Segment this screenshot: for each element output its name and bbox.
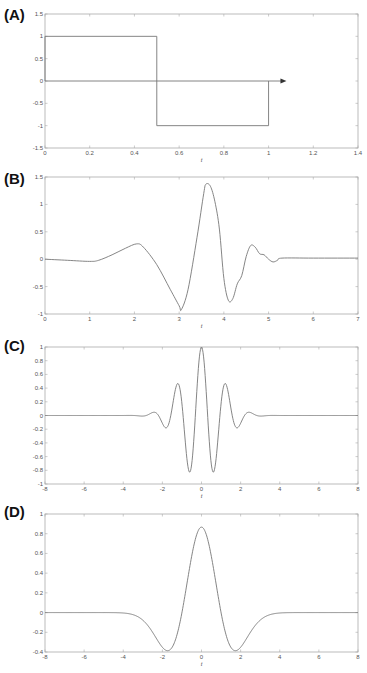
arrow-head-icon (280, 79, 286, 84)
x-tick-label: 0 (43, 150, 47, 156)
x-tick-label: 6 (317, 654, 321, 660)
x-tick-label: 4 (278, 486, 282, 492)
y-tick-label: 1.5 (35, 11, 44, 17)
wavelet-curve (45, 184, 358, 311)
x-tick-label: 1 (267, 150, 271, 156)
x-tick-label: 7 (356, 316, 360, 322)
y-tick-label: 0 (40, 413, 44, 419)
y-tick-label: 1 (40, 201, 44, 207)
x-axis-label: t (201, 157, 203, 163)
y-tick-label: -1 (38, 123, 44, 129)
chart-d: -8-6-4-202468-0.4-0.200.20.40.60.81t (33, 511, 361, 667)
x-tick-label: -6 (81, 654, 87, 660)
x-tick-label: -8 (42, 486, 48, 492)
plot-frame (45, 514, 358, 652)
chart-a: 00.20.40.60.811.21.4-1.5-1-0.500.511.5t (33, 11, 363, 163)
x-axis-label: t (201, 493, 203, 499)
y-tick-label: 0.6 (35, 550, 44, 556)
x-tick-label: -4 (121, 654, 127, 660)
y-tick-label: 0.6 (35, 371, 44, 377)
x-axis-label: t (201, 323, 203, 329)
x-tick-label: 1 (88, 316, 92, 322)
x-tick-label: 4 (278, 654, 282, 660)
x-tick-label: 1.2 (309, 150, 318, 156)
x-tick-label: -4 (121, 486, 127, 492)
y-tick-label: -0.2 (33, 426, 44, 432)
y-tick-label: -1 (38, 481, 44, 487)
x-tick-label: -2 (160, 486, 166, 492)
y-tick-label: 1 (40, 33, 44, 39)
x-axis-label: t (201, 661, 203, 667)
wavelet-curve (45, 347, 358, 472)
y-tick-label: 0 (40, 256, 44, 262)
wavelet-curve (45, 527, 358, 651)
y-tick-label: 0.5 (35, 229, 44, 235)
y-tick-label: 0.5 (35, 56, 44, 62)
y-tick-label: 0.4 (35, 385, 44, 391)
x-tick-label: 3 (177, 316, 181, 322)
y-tick-label: -0.5 (33, 100, 44, 106)
x-tick-label: -6 (81, 486, 87, 492)
y-tick-label: -0.4 (33, 440, 44, 446)
x-tick-label: 0 (200, 654, 204, 660)
x-tick-label: 6 (317, 486, 321, 492)
x-tick-label: 2 (133, 316, 137, 322)
x-tick-label: 2 (239, 654, 243, 660)
y-tick-label: 1.5 (35, 174, 44, 180)
x-tick-label: -2 (160, 654, 166, 660)
x-tick-label: 8 (356, 654, 360, 660)
y-tick-label: 0 (40, 78, 44, 84)
plot-frame (45, 177, 358, 314)
y-tick-label: -1 (38, 311, 44, 317)
y-tick-label: 1 (40, 511, 44, 517)
y-tick-label: 0.4 (35, 570, 44, 576)
x-tick-label: 0 (200, 486, 204, 492)
x-tick-label: 1.4 (354, 150, 363, 156)
y-tick-label: 0.8 (35, 358, 44, 364)
x-tick-label: 0.2 (86, 150, 95, 156)
y-tick-label: 0.2 (35, 590, 44, 596)
x-tick-label: -8 (42, 654, 48, 660)
y-tick-label: 1 (40, 344, 44, 350)
y-tick-label: -0.8 (33, 467, 44, 473)
y-tick-label: -0.5 (33, 284, 44, 290)
y-tick-label: -0.4 (33, 649, 44, 655)
x-tick-label: 0 (43, 316, 47, 322)
y-tick-label: -1.5 (33, 145, 44, 151)
chart-b: 01234567-1-0.500.511.5t (33, 174, 361, 329)
y-tick-label: 0.2 (35, 399, 44, 405)
wavelet-plots: 00.20.40.60.811.21.4-1.5-1-0.500.511.5t0… (0, 0, 367, 673)
x-tick-label: 6 (312, 316, 316, 322)
y-tick-label: -0.6 (33, 454, 44, 460)
x-tick-label: 0.6 (175, 150, 184, 156)
x-tick-label: 5 (267, 316, 271, 322)
x-tick-label: 0.8 (220, 150, 229, 156)
y-tick-label: 0.8 (35, 531, 44, 537)
x-tick-label: 2 (239, 486, 243, 492)
x-tick-label: 0.4 (130, 150, 139, 156)
y-tick-label: -0.2 (33, 629, 44, 635)
chart-c: -8-6-4-202468-1-0.8-0.6-0.4-0.200.20.40.… (33, 344, 361, 499)
y-tick-label: 0 (40, 610, 44, 616)
x-tick-label: 8 (356, 486, 360, 492)
x-tick-label: 4 (222, 316, 226, 322)
